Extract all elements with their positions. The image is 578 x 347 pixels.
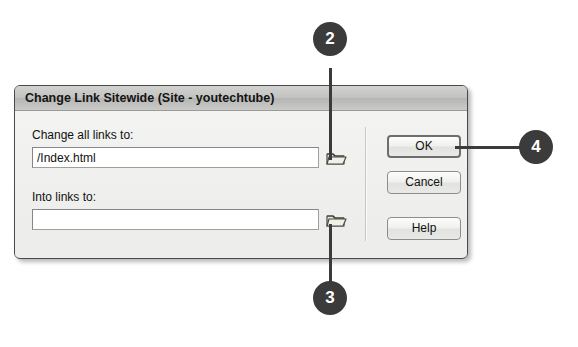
form-area: Change all links to: Into links to: xyxy=(15,111,359,257)
callout-4-leader-line xyxy=(455,146,523,149)
callout-marker-2: 2 xyxy=(313,22,347,56)
callout-2-leader-line xyxy=(329,68,332,160)
ok-button[interactable]: OK xyxy=(387,135,461,158)
callout-3-leader-line xyxy=(329,224,332,284)
callout-marker-3: 3 xyxy=(313,281,347,315)
dialog-button-column: OK Cancel Help xyxy=(387,111,467,257)
help-button[interactable]: Help xyxy=(387,217,461,240)
change-all-links-input[interactable] xyxy=(32,147,319,168)
dialog-body: Change all links to: Into links to: xyxy=(15,111,467,257)
dialog-title: Change Link Sitewide (Site - youtechtube… xyxy=(25,91,274,105)
change-all-links-label: Change all links to: xyxy=(32,128,133,142)
into-links-input[interactable] xyxy=(32,209,319,230)
vertical-divider xyxy=(365,127,367,241)
dialog-titlebar: Change Link Sitewide (Site - youtechtube… xyxy=(15,86,467,111)
into-links-label: Into links to: xyxy=(32,190,96,204)
change-link-sitewide-dialog: Change Link Sitewide (Site - youtechtube… xyxy=(14,85,468,259)
callout-marker-3-label: 3 xyxy=(325,288,334,308)
callout-marker-4-label: 4 xyxy=(531,137,540,157)
callout-marker-4: 4 xyxy=(519,130,553,164)
callout-marker-2-label: 2 xyxy=(325,29,334,49)
cancel-button[interactable]: Cancel xyxy=(387,171,461,194)
